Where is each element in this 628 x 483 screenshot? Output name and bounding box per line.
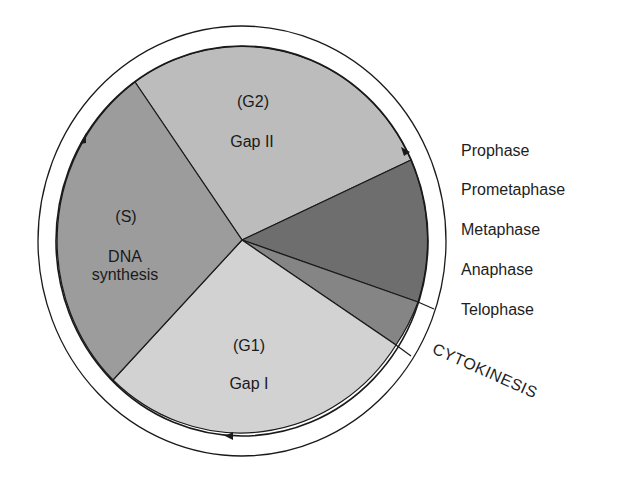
cell-cycle-diagram: (G2) Gap II (S) DNA synthesis (G1) Gap I [0,0,628,483]
label-prometaphase: Prometaphase [461,181,565,199]
s-code-label: (S) [115,208,136,225]
g1-name-label: Gap I [229,375,268,392]
label-telophase: Telophase [461,301,534,319]
s-name-line1-label: DNA [108,248,142,265]
g2-name-label: Gap II [230,133,274,150]
label-prophase: Prophase [461,142,530,160]
s-name-line2-label: synthesis [92,266,159,283]
label-metaphase: Metaphase [461,221,540,239]
label-anaphase: Anaphase [461,261,533,279]
g1-code-label: (G1) [233,337,265,354]
g2-code-label: (G2) [237,93,269,110]
